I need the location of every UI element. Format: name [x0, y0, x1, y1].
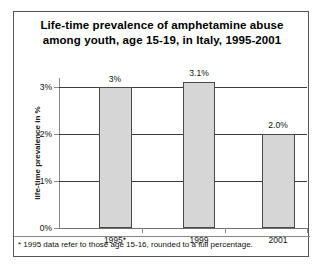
chart-title-line-1: Life-time prevalence of amphetamine abus… [14, 18, 310, 33]
bar-label-2001: 2.0% [268, 120, 287, 130]
y-tick-label-1: 1% [40, 176, 52, 186]
bar-label-1995: 3% [109, 74, 121, 84]
y-tick-mark-3 [54, 87, 59, 88]
footnote: * 1995 data refer to those age 15-16, ro… [18, 240, 253, 249]
y-tick-label-3: 3% [40, 82, 52, 92]
y-tick-label-0: 0% [40, 223, 52, 233]
chart-title-line-2: among youth, age 15-19, in Italy, 1995-2… [14, 33, 310, 48]
y-tick-label-2: 2% [40, 129, 52, 139]
chart-title: Life-time prevalence of amphetamine abus… [14, 18, 310, 48]
y-axis-title: life-time prevalence in % [32, 78, 44, 228]
x-axis-line [59, 228, 307, 229]
plot-area: 3% 2% 1% 0% 3% 3.1% 2.0% 1995* 1999 2001 [59, 78, 307, 228]
chart-frame: Life-time prevalence of amphetamine abus… [13, 11, 309, 257]
y-tick-mark-2 [54, 134, 59, 135]
x-tick-mark-1 [142, 228, 143, 233]
bar-label-1999: 3.1% [189, 68, 208, 78]
footnote-divider [14, 236, 310, 237]
y-tick-mark-1 [54, 181, 59, 182]
bar-1995 [99, 87, 132, 228]
x-tick-mark-3 [307, 228, 308, 233]
bar-2001 [262, 134, 295, 228]
y-axis-line [59, 78, 60, 229]
x-tick-mark-2 [225, 228, 226, 233]
bar-1999 [183, 82, 215, 228]
